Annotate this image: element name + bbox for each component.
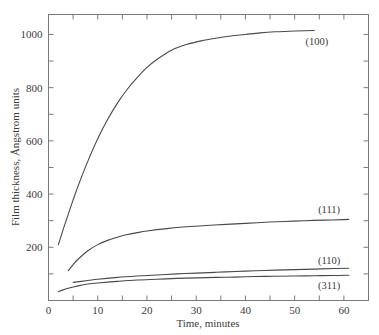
x-axis-title: Time, minutes [176, 317, 239, 329]
curve-label-311: (311) [318, 280, 341, 292]
curve-111 [68, 219, 349, 270]
curve-label-110: (110) [318, 255, 341, 267]
y-tick-label: 400 [26, 188, 43, 200]
y-axis-title: Film thickness, Ångstrom units [9, 88, 21, 226]
y-tick-label: 200 [26, 241, 43, 253]
x-tick-label: 30 [191, 304, 203, 316]
x-tick-label: 0 [46, 304, 52, 316]
y-tick-label: 1000 [21, 28, 44, 40]
x-tick-label: 50 [289, 304, 301, 316]
y-tick-label: 800 [26, 82, 43, 94]
y-tick-label: 600 [26, 135, 43, 147]
chart-figure: 0102030405060 2004006008001000 (100)(111… [0, 0, 379, 335]
line-chart-svg: 0102030405060 2004006008001000 (100)(111… [0, 0, 379, 335]
curve-100 [58, 30, 314, 244]
x-axis-tick-labels: 0102030405060 [46, 304, 350, 316]
x-tick-label: 60 [338, 304, 350, 316]
y-axis-tick-labels: 2004006008001000 [21, 28, 44, 253]
curve-label-100: (100) [305, 36, 328, 48]
curve-311 [58, 275, 348, 291]
x-tick-label: 20 [141, 304, 153, 316]
curve-labels: (100)(111)(110)(311) [305, 36, 340, 291]
x-tick-label: 40 [240, 304, 252, 316]
data-curves [58, 30, 348, 291]
x-tick-label: 10 [92, 304, 104, 316]
curve-label-111: (111) [318, 204, 340, 216]
